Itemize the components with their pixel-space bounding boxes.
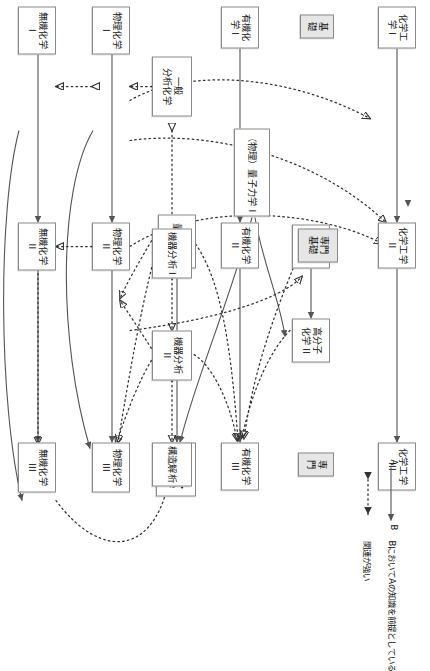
legend-solid-description: BにおいてAの知識を前提としている bbox=[387, 540, 399, 671]
legend-label-a: A bbox=[389, 459, 399, 465]
legend-label-b: B bbox=[389, 524, 399, 530]
legend-dotted-description: 関連が強い bbox=[362, 540, 374, 580]
